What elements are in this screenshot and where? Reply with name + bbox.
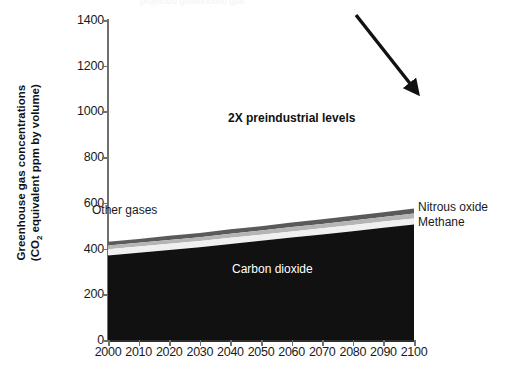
series-label-other-gases: Other gases xyxy=(92,203,157,217)
y-tick-label: 1400 xyxy=(58,13,104,27)
y-axis-title-line1: Greenhouse gas concentrations xyxy=(14,85,26,261)
x-tick-label: 2090 xyxy=(370,345,397,359)
x-tick-label: 2050 xyxy=(248,345,275,359)
series-label-nitrous-oxide: Nitrous oxide xyxy=(418,200,488,214)
y-tick-label: 200 xyxy=(58,287,104,301)
x-tick-label: 2020 xyxy=(156,345,183,359)
series-label-methane: Methane xyxy=(418,215,465,229)
annotation-arrow xyxy=(108,20,414,340)
x-tick-label: 2060 xyxy=(278,345,305,359)
plot-area xyxy=(108,20,414,340)
annotation-2x-preindustrial: 2X preindustrial levels xyxy=(228,111,355,125)
y-axis-title-line2: (CO2 equivalent ppm by volume) xyxy=(27,84,46,261)
x-tick-label: 2080 xyxy=(339,345,366,359)
y-tick-label: 400 xyxy=(58,242,104,256)
x-tick-label: 2000 xyxy=(95,345,122,359)
x-tick-label: 2010 xyxy=(125,345,152,359)
x-tick-label: 2100 xyxy=(401,345,428,359)
clipped-header-text: projected greenhouse gas xyxy=(140,0,244,6)
y-axis-title: Greenhouse gas concentrations (CO2 equiv… xyxy=(2,0,58,345)
y-tick-label: 1000 xyxy=(58,104,104,118)
x-tick-label: 2040 xyxy=(217,345,244,359)
y-tick-label-group: 0 200 400 600 800 1000 1200 1400 xyxy=(56,0,104,371)
chart-figure: projected greenhouse gas Greenhouse gas … xyxy=(0,0,510,371)
x-tick-label: 2030 xyxy=(186,345,213,359)
x-tick-label: 2070 xyxy=(309,345,336,359)
y-tick-label: 1200 xyxy=(58,59,104,73)
series-label-carbon-dioxide: Carbon dioxide xyxy=(232,262,313,276)
y-tick-label: 800 xyxy=(58,150,104,164)
